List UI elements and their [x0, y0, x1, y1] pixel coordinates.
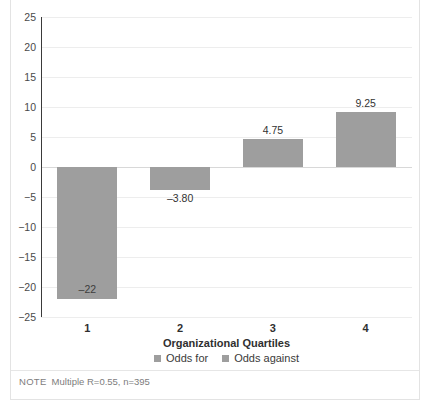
y-axis-tick-label: 0 [2, 161, 36, 173]
y-axis-tick-label: 20 [2, 41, 36, 53]
legend-label: Odds for [166, 352, 208, 364]
note-text: Multiple R=0.55, n=395 [52, 376, 150, 387]
y-axis-tick-label: −25 [2, 311, 36, 323]
note-label: NOTE [19, 376, 47, 387]
y-axis-tick-label: −5 [2, 191, 36, 203]
legend-item: Odds for [154, 352, 208, 364]
x-axis-tick-label: 1 [84, 322, 90, 334]
legend-swatch-icon [222, 355, 229, 362]
y-axis-tick-label: 10 [2, 101, 36, 113]
bar-value-label: 9.25 [355, 97, 375, 109]
y-axis-tick-label: −15 [2, 251, 36, 263]
y-axis-tick-label: 15 [2, 71, 36, 83]
x-axis-tick-label: 4 [363, 322, 369, 334]
x-axis-tick-label: 2 [177, 322, 183, 334]
y-axis-tick-label: 25 [2, 11, 36, 23]
bar-value-label: 4.75 [263, 124, 283, 136]
x-axis-title: Organizational Quartiles [41, 337, 412, 349]
chart-title [40, 0, 412, 4]
gridline [41, 317, 412, 318]
chart-figure: 2520151050−5−10−15−20−25 –22–3.804.759.2… [0, 0, 432, 409]
bar-value-label: –3.80 [167, 192, 193, 204]
y-axis-tick-label: −10 [2, 221, 36, 233]
legend-item: Odds against [222, 352, 299, 364]
y-axis-ticks: 2520151050−5−10−15−20−25 [0, 17, 36, 317]
bar [336, 112, 396, 168]
bar-value-label: –22 [79, 283, 97, 295]
x-axis-tick-label: 3 [270, 322, 276, 334]
chart-legend: Odds forOdds against [41, 352, 412, 364]
legend-label: Odds against [234, 352, 299, 364]
figure-note: NOTEMultiple R=0.55, n=395 [19, 376, 150, 387]
plot-bars: –22–3.804.759.25 [41, 17, 412, 317]
y-axis-tick-label: −20 [2, 281, 36, 293]
legend-swatch-icon [154, 355, 161, 362]
bar [150, 167, 210, 190]
note-divider [11, 370, 419, 371]
bar [243, 139, 303, 168]
y-axis-tick-label: 5 [2, 131, 36, 143]
bar [57, 167, 117, 299]
